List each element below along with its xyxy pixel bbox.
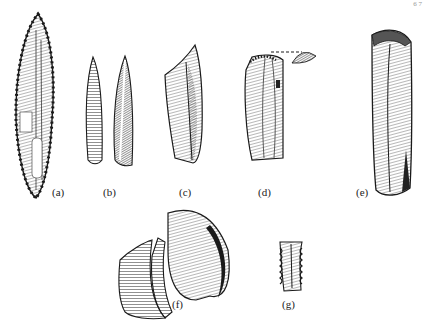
label-g: (g) xyxy=(282,298,295,310)
label-e: (e) xyxy=(356,186,368,198)
label-a: (a) xyxy=(52,186,64,198)
label-b: (b) xyxy=(103,186,116,198)
label-f: (f) xyxy=(172,298,183,310)
artifact-g xyxy=(280,242,302,291)
artifact-drawings xyxy=(0,0,424,326)
label-d: (d) xyxy=(258,186,271,198)
artifact-c xyxy=(165,45,202,163)
artifact-a xyxy=(16,14,53,198)
artifact-b xyxy=(86,56,132,166)
label-c: (c) xyxy=(179,186,191,198)
artifact-e xyxy=(372,30,412,195)
artifact-d xyxy=(245,52,316,160)
